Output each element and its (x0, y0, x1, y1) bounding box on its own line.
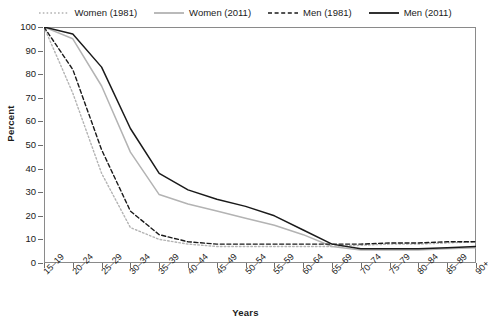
y-tick-mark (38, 51, 43, 52)
y-tick-mark (38, 169, 43, 170)
y-tick-label: 60 (25, 117, 36, 127)
x-tick-label: 90+ (474, 259, 491, 276)
y-tick-mark (38, 216, 43, 217)
legend-item[interactable]: Women (1981) (39, 8, 137, 18)
y-tick-mark (38, 98, 43, 99)
solid-line-icon (369, 8, 399, 18)
y-tick-mark (38, 121, 43, 122)
y-axis: Percent 0102030405060708090100 (0, 0, 44, 290)
y-tick-mark (38, 145, 43, 146)
legend-label: Women (2011) (189, 8, 251, 18)
x-axis-title: Years (0, 307, 491, 318)
legend-item[interactable]: Men (1981) (268, 8, 352, 18)
y-axis-title: Percent (5, 94, 16, 154)
y-tick-label: 30 (25, 187, 36, 197)
y-tick-label: 70 (25, 93, 36, 103)
y-tick-label: 90 (25, 46, 36, 56)
series-line-3 (44, 27, 476, 249)
y-tick-label: 40 (25, 164, 36, 174)
legend-label: Men (1981) (303, 8, 352, 18)
y-tick-label: 100 (20, 22, 36, 32)
x-axis: Years 15–1920–2425–2930–3435–3940–4445–4… (0, 263, 491, 318)
series-line-1 (44, 27, 476, 250)
series-line-0 (44, 27, 476, 246)
y-tick-mark (38, 239, 43, 240)
plot-series-layer (44, 27, 476, 263)
dashed-line-icon (268, 8, 298, 18)
y-tick-label: 80 (25, 69, 36, 79)
y-tick-label: 10 (25, 235, 36, 245)
chart-legend: Women (1981)Women (2011)Men (1981)Men (2… (0, 4, 491, 22)
y-tick-mark (38, 74, 43, 75)
y-tick-mark (38, 192, 43, 193)
solid-line-icon (154, 8, 184, 18)
y-tick-label: 20 (25, 211, 36, 221)
legend-item[interactable]: Men (2011) (369, 8, 452, 18)
line-chart: Women (1981)Women (2011)Men (1981)Men (2… (0, 0, 491, 318)
y-tick-label: 50 (25, 140, 36, 150)
legend-label: Women (1981) (74, 8, 137, 18)
legend-item[interactable]: Women (2011) (154, 8, 251, 18)
y-tick-mark (38, 27, 43, 28)
legend-label: Men (2011) (404, 8, 452, 18)
